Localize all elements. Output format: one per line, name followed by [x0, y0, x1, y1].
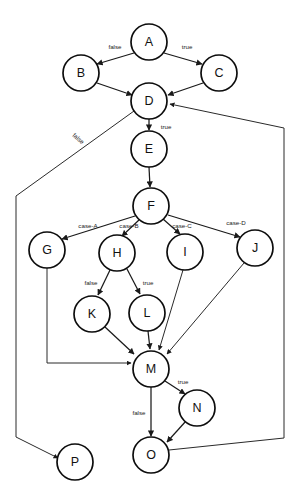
- edge-label-a-b: false: [108, 43, 122, 50]
- edge-k-m: [105, 327, 134, 354]
- node-e[interactable]: E: [131, 131, 167, 167]
- edge-j-m: [167, 263, 244, 354]
- node-e-label: E: [145, 142, 153, 156]
- edge-label-f-i: case-C: [172, 222, 192, 229]
- node-h-label: H: [112, 246, 121, 260]
- node-p-label: P: [71, 455, 79, 469]
- edge-n-o: [167, 421, 186, 442]
- edge-label-f-g: case-A: [78, 222, 98, 229]
- edge-d-p: [16, 111, 134, 458]
- node-j[interactable]: J: [237, 230, 273, 266]
- node-g-label: G: [42, 243, 52, 257]
- flowchart-canvas: A B C D E F: [0, 0, 307, 500]
- node-l[interactable]: L: [129, 295, 165, 331]
- node-i-label: I: [183, 245, 186, 259]
- node-o-label: O: [146, 448, 156, 462]
- edge-a-b: [97, 53, 134, 64]
- node-m-label: M: [146, 362, 156, 376]
- edge-label-d-e: true: [161, 123, 172, 130]
- node-j-label: J: [252, 241, 258, 255]
- node-a[interactable]: A: [131, 24, 167, 60]
- node-b-label: B: [77, 66, 85, 80]
- node-g[interactable]: G: [29, 232, 65, 268]
- node-a-label: A: [145, 35, 154, 49]
- node-p[interactable]: P: [57, 444, 93, 480]
- edge-label-h-l: true: [143, 279, 154, 286]
- node-b[interactable]: B: [63, 55, 99, 91]
- node-n-label: N: [192, 401, 201, 415]
- node-d[interactable]: D: [131, 83, 167, 119]
- edge-l-m: [148, 331, 150, 349]
- flowchart-svg: A B C D E F: [0, 0, 307, 500]
- edge-h-k: [98, 270, 110, 295]
- edge-label-f-j: case-D: [226, 219, 246, 226]
- node-c[interactable]: C: [201, 55, 237, 91]
- edge-label-d-p: false: [71, 131, 86, 145]
- node-l-label: L: [144, 306, 151, 320]
- edge-a-c: [164, 53, 202, 64]
- node-f[interactable]: F: [133, 188, 169, 224]
- edge-label-a-c: true: [182, 43, 193, 50]
- node-f-label: F: [147, 199, 155, 213]
- node-h[interactable]: H: [99, 235, 135, 271]
- node-n[interactable]: N: [179, 390, 215, 426]
- edge-label-m-o: false: [132, 409, 146, 416]
- edge-label-h-k: false: [84, 279, 98, 286]
- edge-label-m-n: true: [178, 378, 189, 385]
- node-c-label: C: [214, 66, 223, 80]
- node-i[interactable]: I: [167, 234, 203, 270]
- node-k-label: K: [88, 307, 97, 321]
- edge-b-d: [97, 83, 132, 95]
- edge-c-d: [168, 83, 203, 95]
- edge-h-l: [127, 269, 140, 294]
- node-o[interactable]: O: [133, 437, 169, 473]
- node-d-label: D: [144, 94, 153, 108]
- edge-label-f-h: case-B: [119, 222, 138, 229]
- node-m[interactable]: M: [133, 351, 169, 387]
- node-k[interactable]: K: [74, 296, 110, 332]
- edge-e-f: [149, 167, 150, 187]
